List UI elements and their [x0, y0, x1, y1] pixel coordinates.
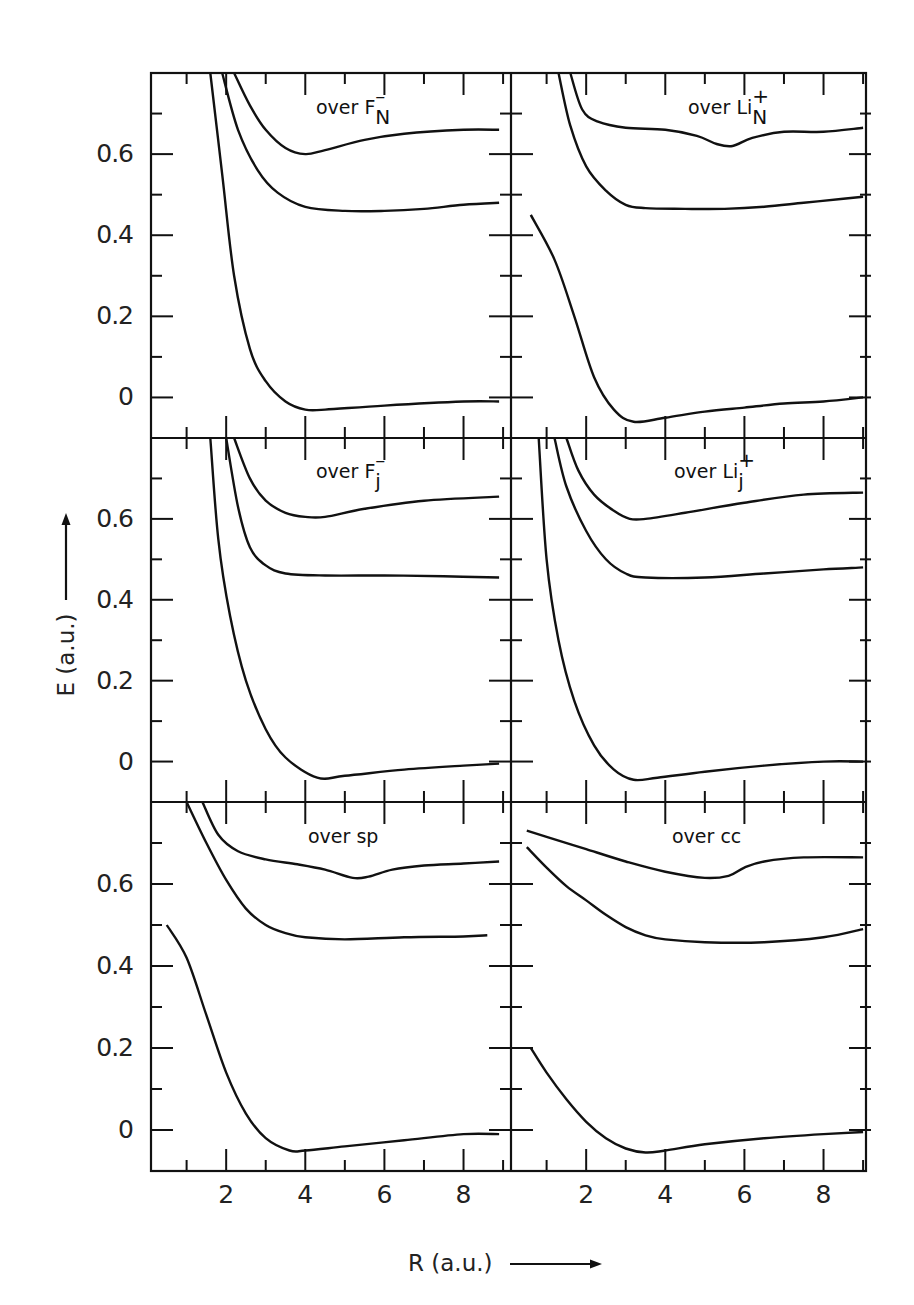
symbol-text: Li [736, 96, 752, 118]
panel-title-prefix: over [674, 460, 716, 482]
y-tick-label: 0.4 [73, 220, 133, 249]
panel-title-over-cc: over cc [672, 825, 741, 847]
x-tick-label: 6 [729, 1180, 759, 1209]
y-tick-label: 0.6 [73, 504, 133, 533]
panel-title-prefix: over [308, 825, 350, 847]
curve-excited-1 [222, 73, 499, 211]
y-tick-label: 0 [73, 1115, 133, 1144]
panel-2-curves [531, 73, 863, 422]
x-axis-title: R (a.u.) [408, 1250, 493, 1276]
y-tick-label: 0.4 [73, 951, 133, 980]
panel-title-over-sp: over sp [308, 825, 378, 847]
panel-title-over-lij: over Li+j [674, 460, 738, 482]
panel-title-symbol: sp [356, 825, 378, 847]
panel-title-symbol: F–N [364, 96, 375, 118]
symbol-text: Li [722, 460, 738, 482]
figure-canvas [0, 0, 914, 1305]
curve-ground [167, 925, 499, 1152]
panel-3-curves [210, 438, 499, 779]
curve-ground [539, 438, 863, 780]
curve-excited-1 [527, 847, 863, 943]
panel-title-prefix: over [672, 825, 714, 847]
panel-5-curves [167, 802, 499, 1152]
panel-title-prefix: over [688, 96, 730, 118]
symbol-text: F [364, 96, 375, 118]
panel-title-over-fj: over F–j [316, 460, 375, 482]
y-tick-label: 0.2 [73, 666, 133, 695]
x-tick-label: 2 [211, 1180, 241, 1209]
panel-title-symbol: F–j [364, 460, 375, 482]
curve-excited-1 [226, 438, 499, 578]
x-tick-label: 8 [449, 1180, 479, 1209]
y-tick-label: 0.6 [73, 869, 133, 898]
panel-6-curves [527, 831, 863, 1153]
panel-title-prefix: over [316, 460, 358, 482]
x-tick-label: 8 [809, 1180, 839, 1209]
y-tick-label: 0.4 [73, 585, 133, 614]
x-tick-label: 2 [571, 1180, 601, 1209]
panel-title-prefix: over [316, 96, 358, 118]
panel-title-symbol: cc [720, 825, 741, 847]
panel-1-curves [210, 73, 499, 410]
curve-ground [210, 73, 499, 410]
symbol-text: F [364, 460, 375, 482]
subscript: N [375, 105, 390, 129]
y-tick-label: 0 [73, 747, 133, 776]
y-axis-arrow-icon [62, 513, 71, 600]
x-axis-arrow-icon [510, 1260, 602, 1269]
subscript: j [738, 469, 744, 493]
curve-ground [210, 438, 499, 779]
panel-title-symbol: Li+j [722, 460, 738, 482]
y-tick-label: 0.6 [73, 139, 133, 168]
subscript: N [752, 105, 767, 129]
subscript: j [375, 469, 381, 493]
panel-title-over-lin: over Li+N [688, 96, 752, 118]
panel-4-curves [539, 438, 863, 780]
curve-ground [531, 215, 863, 422]
x-tick-label: 4 [650, 1180, 680, 1209]
panel-title-symbol: Li+N [736, 96, 752, 118]
x-axis-title-text: R (a.u.) [408, 1250, 493, 1276]
curve-excited-1 [187, 802, 488, 939]
panel-title-over-fn: over F–N [316, 96, 375, 118]
x-tick-label: 4 [290, 1180, 320, 1209]
y-tick-label: 0 [73, 382, 133, 411]
y-tick-label: 0.2 [73, 1033, 133, 1062]
x-tick-label: 6 [369, 1180, 399, 1209]
curve-ground [531, 1048, 863, 1153]
y-tick-label: 0.2 [73, 301, 133, 330]
